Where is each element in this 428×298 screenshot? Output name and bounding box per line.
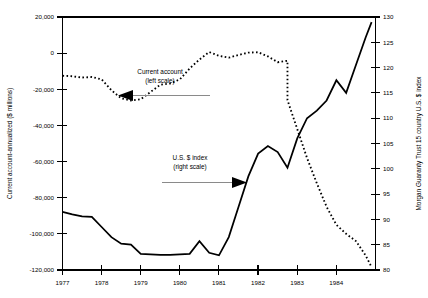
right-tick-label: 80 [383,266,390,273]
left-tick-label: 0 [51,49,55,56]
plot-frame [63,17,376,270]
left-tick-label: -40,000 [33,122,55,129]
current-account-annotation-line2: (left scale) [145,77,174,85]
x-tick-label: 1981 [212,279,226,286]
dollar-index-annotation-line1: U.S. $ index [173,154,209,161]
left-axis-title: Current account-annualized ($ millions) [6,88,14,199]
right-axis: 130 125 120 115 110 105 100 95 90 85 80 … [371,13,423,273]
x-tick-label: 1983 [290,279,304,286]
left-axis: 20,000 0 -20,000 -40,000 -60,000 -80,000… [6,13,67,273]
x-tick-label: 1982 [251,279,265,286]
left-tick-label: -120,000 [30,266,55,273]
right-tick-label: 130 [383,13,394,20]
x-tick-label: 1979 [134,279,148,286]
right-axis-title: Morgan Guaranty Trust 15 country U.S. $ … [415,76,423,211]
right-tick-label: 100 [383,165,394,172]
right-tick-label: 115 [383,89,393,96]
series-dollar-index [63,22,372,255]
x-tick-label: 1984 [329,279,343,286]
arrow-left-icon [118,90,133,101]
x-tick-label: 1978 [95,279,109,286]
right-tick-label: 95 [383,190,390,197]
data-series-group [63,22,372,267]
right-tick-label: 90 [383,216,390,223]
bottom-axis: 1977 1978 1979 1980 1981 1982 1983 1984 [56,265,344,286]
left-tick-label: -80,000 [33,194,55,201]
dollar-index-annotation: U.S. $ index (right scale) [162,154,247,188]
chart-container: 20,000 0 -20,000 -40,000 -60,000 -80,000… [0,0,428,298]
current-account-annotation-line1: Current account [137,68,183,75]
chart-svg: 20,000 0 -20,000 -40,000 -60,000 -80,000… [0,0,428,298]
right-tick-label: 120 [383,64,394,71]
current-account-annotation: Current account (left scale) [118,68,210,101]
x-tick-label: 1977 [56,279,70,286]
right-tick-label: 105 [383,140,394,147]
left-tick-label: -20,000 [33,86,55,93]
left-tick-label: -60,000 [33,158,55,165]
right-tick-label: 110 [383,114,393,121]
left-tick-label: 20,000 [35,13,54,20]
dollar-index-annotation-line2: (right scale) [173,163,206,171]
right-tick-label: 125 [383,39,394,46]
x-tick-label: 1980 [173,279,187,286]
right-tick-label: 85 [383,241,390,248]
left-tick-label: -100,000 [30,230,55,237]
